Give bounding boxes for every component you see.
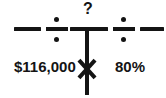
divide-right-dot-top (121, 17, 126, 22)
percent-label: 80% (115, 59, 145, 74)
divide-left-bar (46, 27, 68, 31)
multiply-icon (76, 58, 98, 80)
dash-left-icon (14, 27, 41, 31)
divide-right-bar (113, 27, 135, 31)
divide-left-icon (46, 16, 68, 42)
divide-right-dot-bottom (121, 37, 126, 42)
t-junction-horizontal-bar (70, 27, 108, 31)
divide-left-dot-top (54, 17, 59, 22)
amount-label: $116,000 (14, 59, 76, 74)
diagram-canvas: ? $116,000 80% (0, 0, 166, 98)
divide-left-dot-bottom (54, 37, 59, 42)
divide-right-icon (113, 16, 135, 42)
dash-right-icon (140, 27, 164, 31)
unknown-value-label: ? (83, 1, 93, 17)
